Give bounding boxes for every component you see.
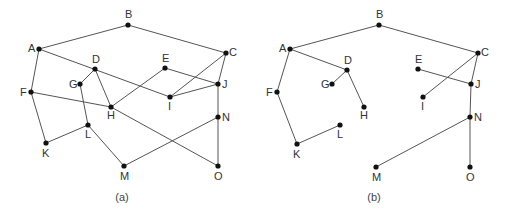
node-label-C: C [481, 46, 489, 58]
graph-b-edges [277, 25, 478, 167]
graph-b-caption: (b) [367, 191, 380, 203]
node-label-K: K [42, 147, 50, 159]
node-B [125, 22, 130, 27]
node-label-A: A [279, 42, 287, 54]
edge-D-H [347, 70, 364, 107]
node-D [344, 67, 349, 72]
node-C [223, 50, 228, 55]
node-label-J: J [222, 78, 228, 90]
graph-a-edges [31, 25, 226, 166]
node-label-D: D [92, 53, 100, 65]
edge-H-O [111, 107, 218, 166]
node-M [121, 163, 126, 168]
edge-A-B [290, 25, 379, 49]
node-M [373, 164, 378, 169]
edge-F-K [31, 92, 46, 143]
node-J [215, 81, 220, 86]
node-K [43, 140, 48, 145]
node-label-G: G [69, 78, 78, 90]
node-N [215, 114, 220, 119]
node-label-L: L [337, 128, 343, 140]
node-label-C: C [229, 46, 237, 58]
edge-A-I [39, 49, 170, 97]
node-label-I: I [421, 100, 424, 112]
edge-G-L [80, 84, 88, 125]
graph-b-nodes: ABCDEFGHIJKLMNO [266, 8, 489, 183]
edge-A-F [31, 49, 39, 92]
edge-A-F [277, 49, 290, 92]
node-label-F: F [20, 86, 27, 98]
edge-C-I [423, 53, 478, 97]
node-label-A: A [28, 42, 36, 54]
edge-D-G [332, 70, 347, 84]
edge-F-H [31, 92, 111, 107]
node-label-M: M [372, 171, 381, 183]
node-O [215, 163, 220, 168]
node-I [420, 94, 425, 99]
graph-a-nodes: ABCDEFGHIJKLMNO [20, 8, 237, 182]
node-label-E: E [162, 52, 169, 64]
node-label-E: E [415, 53, 422, 65]
node-K [294, 141, 299, 146]
node-I [167, 94, 172, 99]
edge-D-G [80, 69, 95, 84]
node-G [77, 81, 82, 86]
edge-N-M [376, 117, 470, 167]
node-L [337, 122, 342, 127]
edge-F-K [277, 92, 297, 144]
graph-a-caption: (a) [115, 191, 128, 203]
node-A [36, 46, 41, 51]
node-label-O: O [466, 171, 475, 183]
edge-I-J [170, 84, 218, 97]
node-O [467, 164, 472, 169]
node-F [28, 89, 33, 94]
node-label-H: H [107, 109, 115, 121]
node-label-B: B [125, 8, 132, 20]
edge-K-L [297, 125, 340, 144]
edge-L-M [88, 125, 124, 166]
node-E [415, 66, 420, 71]
node-label-L: L [85, 128, 91, 140]
node-label-N: N [474, 111, 482, 123]
node-label-K: K [293, 148, 301, 160]
edge-B-C [379, 25, 478, 53]
node-label-N: N [222, 111, 230, 123]
node-label-J: J [475, 78, 481, 90]
node-label-O: O [214, 170, 223, 182]
node-label-F: F [266, 86, 273, 98]
node-label-H: H [360, 109, 368, 121]
graph-diagram: ABCDEFGHIJKLMNO (a) ABCDEFGHIJKLMNO (b) [0, 0, 507, 218]
node-J [468, 81, 473, 86]
edge-K-L [46, 125, 88, 143]
edge-H-E [111, 68, 165, 107]
edge-E-J [165, 68, 218, 84]
node-L [85, 122, 90, 127]
node-label-G: G [321, 78, 330, 90]
edge-A-B [39, 25, 128, 49]
edge-E-J [418, 69, 471, 84]
node-label-D: D [344, 54, 352, 66]
node-label-I: I [168, 100, 171, 112]
node-label-M: M [120, 170, 129, 182]
node-label-B: B [376, 8, 383, 20]
node-F [274, 89, 279, 94]
node-A [287, 46, 292, 51]
node-N [467, 114, 472, 119]
edge-J-N [470, 84, 471, 117]
graph-a-full: ABCDEFGHIJKLMNO (a) [20, 8, 237, 203]
node-C [475, 50, 480, 55]
edge-A-D [290, 49, 347, 70]
node-B [376, 22, 381, 27]
edge-B-C [128, 25, 226, 53]
graph-b-spanning-tree: ABCDEFGHIJKLMNO (b) [266, 8, 489, 203]
node-E [162, 65, 167, 70]
node-G [329, 81, 334, 86]
node-D [92, 66, 97, 71]
